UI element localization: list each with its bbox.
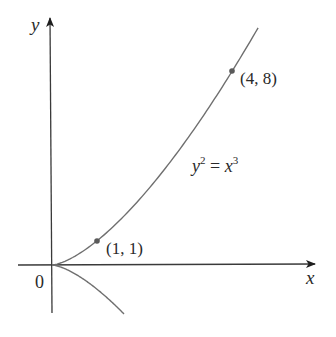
point-label-4-8: (4, 8) (240, 70, 277, 87)
point-label-1-1: (1, 1) (106, 240, 143, 257)
point-4-8-marker (229, 68, 235, 74)
semicubical-parabola-diagram: y x 0 (1, 1) (4, 8) y2 = x3 (0, 0, 336, 337)
x-axis (18, 264, 315, 265)
x-axis-label: x (306, 268, 314, 287)
y-axis-label: y (31, 15, 39, 34)
point-1-1-marker (94, 238, 100, 244)
curve-lower-branch (52, 265, 124, 314)
origin-label: 0 (35, 273, 44, 291)
curve-upper-branch (52, 28, 258, 265)
plot-canvas (0, 0, 336, 337)
y-axis (50, 18, 52, 313)
equation-rhs-exponent: 3 (233, 154, 239, 166)
equation-rhs-var: x (225, 156, 233, 176)
equation-lhs-exponent: 2 (200, 154, 206, 166)
equation-label: y2 = x3 (192, 156, 238, 175)
equation-equals: = (210, 156, 220, 176)
equation-lhs-var: y (192, 156, 200, 176)
